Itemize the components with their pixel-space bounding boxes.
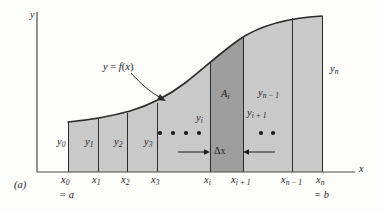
x-tick-label-x2: x2 [121, 175, 129, 186]
x-tick-label-x3: x3 [151, 175, 159, 186]
y-label-base: y [144, 136, 149, 147]
y-label-subscript: n [335, 67, 339, 76]
x-label-base: x [231, 174, 236, 185]
x-tick-label-xi: xi [204, 175, 211, 186]
y-value-label-yi1: yi + 1 [247, 108, 266, 119]
y-label-base: y [114, 136, 119, 147]
x-label-subscript: 0 [66, 178, 70, 187]
x-tick-label-xn1: xn − 1 [281, 175, 302, 186]
x-tick-label-xn: xn [316, 175, 324, 186]
dot [171, 131, 175, 135]
y-label-subscript: n − 1 [263, 91, 279, 100]
function-label-equals: = [108, 61, 119, 72]
xn-equals-b-note: = b [314, 190, 329, 201]
delta-x-text: Δx [214, 145, 225, 156]
x-label-base: x [151, 174, 156, 185]
y-label-base: y [196, 112, 201, 123]
x-label-base: x [92, 174, 97, 185]
x-label-subscript: 3 [156, 178, 160, 187]
y-label-subscript: 2 [119, 140, 123, 149]
x-axis-label: x [359, 164, 363, 174]
riemann-sum-diagram [0, 0, 383, 213]
function-label: y = f(x) [103, 62, 133, 73]
y-label-base: y [85, 136, 90, 147]
y-label-subscript: 0 [62, 140, 66, 149]
function-label-paren-close: ) [130, 61, 134, 72]
x-label-subscript: i [209, 178, 211, 187]
dot [259, 131, 263, 135]
y-label-subscript: 1 [90, 140, 94, 149]
y-value-label-yn: yn [330, 64, 338, 75]
y-value-label-y2: y2 [114, 137, 122, 148]
function-label-leader [131, 73, 166, 101]
x-tick-label-xi1: xi + 1 [231, 175, 250, 186]
x-label-base: x [61, 174, 66, 185]
area-label-subscript: i [227, 92, 229, 101]
leader-curve [131, 73, 161, 98]
dot [271, 131, 275, 135]
y-label-base: y [247, 107, 252, 118]
dot [184, 131, 188, 135]
x-label-subscript: 2 [126, 178, 130, 187]
x-label-base: x [204, 174, 209, 185]
x-label-base: x [281, 174, 286, 185]
y-value-label-y0: y0 [57, 137, 65, 148]
y-value-label-yi: yi [196, 113, 203, 124]
figure-label: (a) [14, 180, 26, 191]
delta-x-label: Δx [214, 146, 225, 156]
x-tick-label-x1: x1 [92, 175, 100, 186]
x-label-base: x [316, 174, 321, 185]
y-value-label-y1: y1 [85, 137, 93, 148]
x-tick-label-x0: x0 [61, 175, 69, 186]
area-label-Ai: Ai [221, 89, 230, 100]
dot [197, 131, 201, 135]
y-axis-label: y [30, 10, 34, 20]
y-label-base: y [330, 63, 335, 74]
y-label-subscript: i + 1 [252, 111, 267, 120]
x-label-subscript: n [321, 178, 325, 187]
x0-equals-a-note: = a [59, 190, 74, 201]
y-label-subscript: i [201, 116, 203, 125]
area-under-curve-fill [68, 16, 322, 172]
x-label-subscript: 1 [97, 178, 101, 187]
y-label-base: y [258, 87, 263, 98]
y-value-label-y3: y3 [144, 137, 152, 148]
y-label-base: y [57, 136, 62, 147]
x-label-subscript: n − 1 [286, 178, 302, 187]
x-label-base: x [121, 174, 126, 185]
y-value-label-yn1: yn − 1 [258, 88, 279, 99]
figure-canvas: y x (a) y = f(x) Ai Δx y0 y1 y2 y3 yi yi… [0, 0, 383, 213]
y-label-subscript: 3 [149, 140, 153, 149]
x-label-subscript: i + 1 [236, 178, 251, 187]
dot [158, 131, 162, 135]
